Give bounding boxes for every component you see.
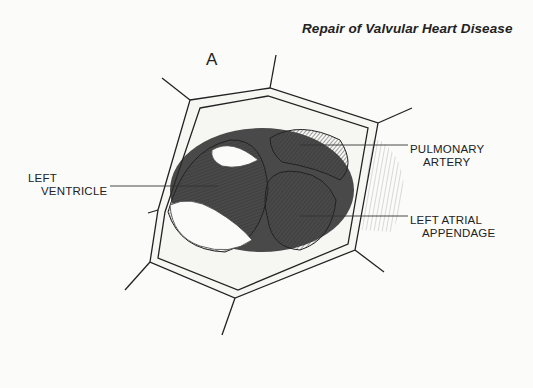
label-line: PULMONARY — [410, 143, 484, 156]
label-line: APPENDAGE — [410, 227, 495, 240]
label-line: LEFT — [28, 172, 107, 185]
label-left-atrial-appendage: LEFT ATRIAL APPENDAGE — [410, 214, 495, 240]
label-line: VENTRICLE — [28, 185, 107, 198]
label-line: ARTERY — [410, 156, 484, 169]
label-left-ventricle: LEFT VENTRICLE — [28, 172, 107, 198]
label-line: LEFT ATRIAL — [410, 214, 495, 227]
label-pulmonary-artery: PULMONARY ARTERY — [410, 143, 484, 169]
